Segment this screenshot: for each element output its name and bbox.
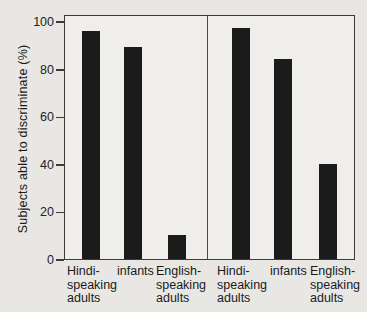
x-tick-label-panel2-infants: infants	[270, 265, 307, 279]
bar-left-panel-english-speaking-adults	[168, 235, 186, 259]
x-tick-label-panel1-infants: infants	[117, 265, 154, 279]
x-tick-label-panel1-hindi-speaking-adults: Hindi- speaking adults	[67, 265, 117, 306]
bar-right-panel-hindi-speaking-adults	[232, 28, 250, 259]
y-tick-label-0: 0	[20, 252, 54, 268]
y-tick-mark-20	[56, 212, 64, 214]
panel-divider-line	[207, 16, 208, 259]
y-tick-label-40: 40	[20, 157, 54, 173]
y-tick-mark-80	[56, 69, 64, 71]
y-tick-mark-100	[56, 21, 64, 23]
y-tick-label-60: 60	[20, 109, 54, 125]
figure-canvas: Subjects able to discriminate (%) 020406…	[0, 0, 367, 312]
y-tick-mark-60	[56, 117, 64, 119]
y-tick-label-100: 100	[20, 14, 54, 30]
y-tick-label-20: 20	[20, 204, 54, 220]
x-tick-label-panel2-hindi-speaking-adults: Hindi- speaking adults	[217, 265, 267, 306]
y-tick-mark-40	[56, 164, 64, 166]
plot-area	[64, 15, 355, 260]
bar-left-panel-infants	[124, 47, 142, 259]
y-tick-label-80: 80	[20, 62, 54, 78]
x-tick-label-panel1-english-speaking-adults: English- speaking adults	[156, 265, 206, 306]
bar-right-panel-english-speaking-adults	[319, 164, 337, 259]
y-tick-mark-0	[56, 259, 64, 261]
x-tick-label-panel2-english-speaking-adults: English- speaking adults	[310, 265, 360, 306]
bar-right-panel-infants	[274, 59, 292, 259]
bar-left-panel-hindi-speaking-adults	[82, 31, 100, 259]
